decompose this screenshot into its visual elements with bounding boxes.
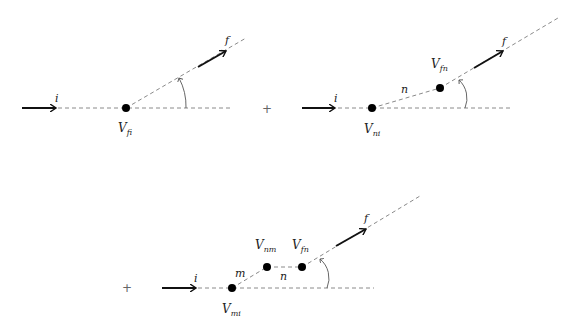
diagram-second-order: i f n Vni Vfn: [302, 18, 558, 138]
angle-arc: [459, 80, 467, 108]
vertex-label: Vfn: [292, 238, 309, 254]
plus-sign: +: [262, 102, 272, 116]
intermediate-label: n: [401, 83, 408, 96]
diagram-third-order: i f m n Vmi Vnm Vfn: [162, 196, 420, 318]
vertex-label: Vfi: [118, 121, 132, 137]
vertex-label: Vfn: [431, 57, 448, 73]
vertex-dot: [298, 263, 306, 271]
vertex-dot: [122, 104, 130, 112]
scattered-line: [126, 38, 246, 108]
incoming-label: i: [55, 92, 59, 105]
plus-sign: +: [122, 281, 132, 295]
angle-arc: [179, 78, 186, 108]
vertex-dot: [263, 263, 271, 271]
diagram-first-order: i f Vfi: [22, 34, 246, 137]
vertex-label: Vnm: [255, 238, 277, 254]
vertex-dot: [228, 284, 236, 292]
incoming-label: i: [194, 272, 198, 285]
outgoing-label: f: [363, 212, 370, 225]
angle-arc: [320, 259, 329, 288]
outgoing-label: f: [224, 34, 231, 47]
vertex-dot: [368, 104, 376, 112]
intermediate-label-m: m: [235, 267, 245, 280]
incoming-label: i: [334, 92, 338, 105]
outgoing-arrow: [198, 51, 226, 67]
outgoing-arrow: [336, 229, 366, 246]
vertex-dot: [436, 84, 444, 92]
outgoing-label: f: [501, 35, 508, 48]
vertex-label: Vmi: [222, 302, 241, 318]
intermediate-label-n: n: [280, 270, 287, 283]
vertex-label: Vni: [364, 122, 381, 138]
outgoing-arrow: [474, 51, 503, 68]
scattering-series-diagram: i f Vfi + i f n Vni Vfn + i f m n: [0, 0, 575, 328]
